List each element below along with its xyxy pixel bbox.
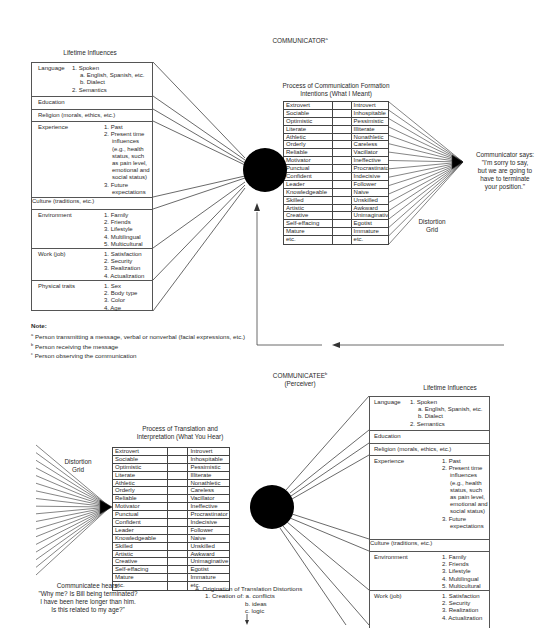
arrow-left-icon — [332, 342, 340, 348]
arrow-down-icon — [245, 620, 249, 625]
communicator-circle — [243, 148, 287, 192]
arrow-up-icon — [254, 203, 260, 211]
